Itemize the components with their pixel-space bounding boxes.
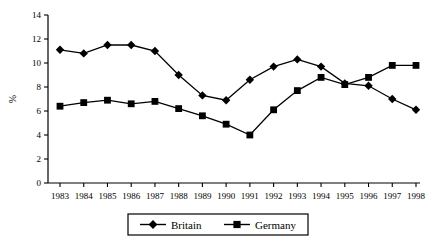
x-tick-label: 1991 [241,191,259,201]
data-point-britain-1994 [317,62,325,70]
data-point-britain-1985 [103,41,111,49]
data-point-germany-1984 [80,99,87,106]
data-point-germany-1990 [223,121,230,128]
x-tick-label: 1983 [51,191,70,201]
data-point-germany-1983 [57,103,64,110]
data-point-germany-1992 [270,106,277,113]
data-point-britain-1983 [56,46,64,54]
data-point-germany-1991 [246,132,253,139]
data-point-britain-1984 [80,49,88,57]
data-point-germany-1986 [128,100,135,107]
y-tick-label: 2 [37,154,42,164]
x-tick-label: 1998 [407,191,426,201]
legend-label-britain: Britain [171,219,202,231]
x-tick-label: 1994 [312,191,331,201]
x-tick-label: 1993 [288,191,307,201]
data-point-germany-1997 [389,62,396,69]
data-point-germany-1995 [341,81,348,88]
data-point-britain-1997 [388,95,396,103]
x-tick-label: 1988 [170,191,189,201]
data-point-germany-1994 [318,74,325,81]
data-point-germany-1998 [413,62,420,69]
data-point-britain-1992 [269,62,277,70]
y-tick-label: 6 [37,106,42,116]
chart-canvas: 02468101214%1983198419851986198719881989… [0,0,433,252]
series-line-germany [60,65,416,135]
data-point-germany-1993 [294,87,301,94]
data-point-britain-1993 [293,55,301,63]
y-tick-label: 4 [37,130,42,140]
x-tick-label: 1987 [146,191,165,201]
y-axis-title: % [7,95,18,103]
x-tick-label: 1985 [98,191,117,201]
legend-label-germany: Germany [255,219,296,231]
data-point-britain-1986 [127,41,135,49]
data-point-germany-1996 [365,74,372,81]
series-line-britain [60,45,416,110]
line-chart: 02468101214%1983198419851986198719881989… [0,0,433,252]
x-tick-label: 1997 [383,191,402,201]
legend: BritainGermany [128,214,308,235]
y-tick-label: 8 [37,82,42,92]
x-tick-label: 1984 [75,191,94,201]
x-tick-label: 1992 [265,191,283,201]
y-tick-label: 12 [32,34,41,44]
x-tick-label: 1995 [336,191,355,201]
x-tick-label: 1996 [360,191,379,201]
data-point-britain-1998 [412,106,420,114]
y-tick-label: 10 [32,58,42,68]
data-point-germany-1985 [104,97,111,104]
data-point-germany-1989 [199,112,206,119]
series-germany [57,62,420,138]
legend-marker-square-icon [233,221,240,228]
data-point-germany-1988 [175,105,182,112]
x-tick-label: 1990 [217,191,236,201]
y-tick-label: 14 [32,10,42,20]
data-point-germany-1987 [152,98,159,105]
x-tick-label: 1986 [122,191,141,201]
data-point-britain-1996 [364,82,372,90]
x-tick-label: 1989 [193,191,212,201]
y-tick-label: 0 [37,178,42,188]
